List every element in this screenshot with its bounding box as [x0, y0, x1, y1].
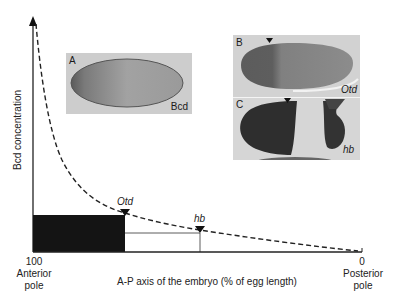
panel-a-letter: A	[69, 55, 76, 66]
otd-marker-label: Otd	[117, 196, 133, 207]
x-axis-label: A-P axis of the embryo (% of egg length)	[117, 276, 297, 287]
panel-b-gene-label: Otd	[341, 84, 357, 95]
x-tick-100: 100	[22, 256, 46, 268]
posterior-label-line2: pole	[336, 280, 390, 292]
anterior-pole-label: Anterior pole	[10, 268, 58, 292]
panel-c-letter: C	[236, 99, 243, 110]
panel-b-otd-embryo: B Otd	[233, 35, 360, 97]
posterior-label-line1: Posterior	[336, 268, 390, 280]
panel-b-letter: B	[236, 37, 243, 48]
otd-expression-box	[33, 215, 125, 252]
x-tick-0: 0	[350, 256, 374, 268]
panel-c-gene-label: hb	[343, 144, 354, 155]
hb-marker-label: hb	[194, 213, 205, 224]
panel-a-bcd-embryo: A Bcd	[66, 53, 192, 114]
hb-embryo-image	[233, 97, 360, 160]
posterior-pole-label: Posterior pole	[336, 268, 390, 292]
anterior-label-line2: pole	[10, 280, 58, 292]
y-axis-label: Bcd concentration	[12, 90, 23, 170]
panel-a-gene-label: Bcd	[171, 101, 188, 112]
anterior-label-line1: Anterior	[10, 268, 58, 280]
panel-c-hb-embryo: C hb	[233, 97, 360, 160]
